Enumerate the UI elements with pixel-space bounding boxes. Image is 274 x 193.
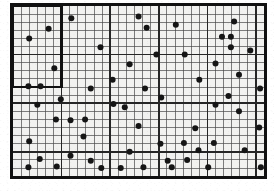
point-marker xyxy=(205,164,211,170)
point-marker xyxy=(211,140,217,146)
point-marker xyxy=(242,147,248,153)
point-marker xyxy=(257,86,263,92)
point-marker xyxy=(97,44,103,50)
point-marker xyxy=(173,22,179,28)
point-marker xyxy=(213,102,219,108)
point-marker xyxy=(231,18,237,24)
point-marker xyxy=(228,34,234,40)
point-marker xyxy=(25,83,31,89)
point-marker xyxy=(228,44,234,50)
point-marker xyxy=(122,104,128,110)
point-marker xyxy=(110,77,116,83)
point-marker xyxy=(196,77,202,83)
point-marker xyxy=(68,153,74,159)
point-marker xyxy=(165,158,171,164)
point-marker xyxy=(26,138,32,144)
point-marker xyxy=(219,34,225,40)
point-marker xyxy=(153,52,159,58)
point-marker xyxy=(213,61,219,67)
point-marker xyxy=(68,15,74,21)
point-marker xyxy=(68,117,74,123)
point-marker xyxy=(182,52,188,58)
point-marker xyxy=(158,95,164,101)
point-marker xyxy=(127,61,133,67)
point-marker xyxy=(118,165,124,171)
quadrat-grid-figure xyxy=(0,0,274,193)
figure-root xyxy=(0,0,274,193)
point-marker xyxy=(142,86,148,92)
point-marker xyxy=(98,165,104,171)
point-marker xyxy=(37,156,43,162)
point-marker xyxy=(258,164,264,170)
point-marker xyxy=(181,140,187,146)
point-marker xyxy=(225,93,231,99)
point-marker xyxy=(88,86,94,92)
point-marker xyxy=(88,158,94,164)
plot-background xyxy=(13,6,264,176)
point-marker xyxy=(25,164,31,170)
point-marker xyxy=(82,116,88,122)
point-marker xyxy=(136,123,142,129)
point-marker xyxy=(54,163,60,169)
point-marker xyxy=(247,48,253,54)
point-marker xyxy=(144,25,150,31)
point-marker xyxy=(195,147,201,153)
point-marker xyxy=(80,133,86,139)
point-marker xyxy=(256,125,262,131)
point-marker xyxy=(140,164,146,170)
point-marker xyxy=(169,164,175,170)
point-marker xyxy=(110,101,116,107)
point-marker xyxy=(236,72,242,78)
point-marker xyxy=(184,157,190,163)
point-marker xyxy=(136,14,142,20)
point-marker xyxy=(34,102,40,108)
point-marker xyxy=(38,83,44,89)
point-marker xyxy=(192,125,198,131)
point-marker xyxy=(26,35,32,41)
point-marker xyxy=(58,96,64,102)
point-marker xyxy=(127,149,133,155)
point-marker xyxy=(51,65,57,71)
point-marker xyxy=(53,116,59,122)
point-marker xyxy=(236,108,242,114)
point-marker xyxy=(157,141,163,147)
point-marker xyxy=(46,26,52,32)
